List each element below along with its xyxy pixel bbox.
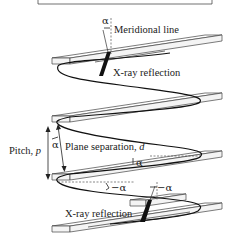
neg-alpha-right-label: −α: [157, 182, 172, 193]
meridional-line-label: Meridional line: [114, 24, 179, 35]
xray-reflection-top-label: X-ray reflection: [113, 67, 181, 78]
helix-xray-diagram: α Meridional line X-ray reflection Pitch…: [0, 0, 239, 248]
xray-reflection-bottom-label: X-ray reflection: [65, 208, 133, 219]
pitch-arrow: [46, 126, 51, 180]
pitch-label: Pitch, p: [9, 145, 41, 156]
plate-1: [52, 35, 222, 64]
alpha-mid-label: α: [136, 157, 143, 168]
alpha-top-label: α: [102, 15, 109, 26]
top-caption-box: [38, 0, 212, 4]
neg-alpha-left-label: −α: [111, 182, 126, 193]
alpha-pitch-label: α: [52, 139, 59, 150]
plane-separation-label: Plane separation, d: [65, 141, 145, 152]
